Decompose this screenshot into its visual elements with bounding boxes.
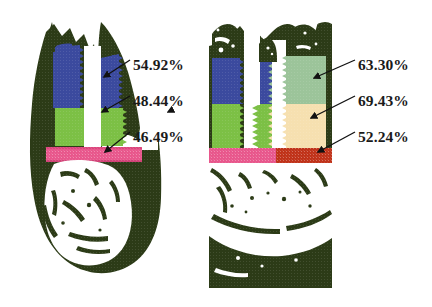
right-specimen bbox=[209, 20, 334, 290]
figure-root: 54.92% 48.44% 46.49% 63.30% 69.43% 52.24… bbox=[0, 0, 432, 307]
right-label-apical: 52.24% bbox=[358, 129, 409, 145]
right-label-coronal: 63.30% bbox=[358, 57, 409, 73]
left-label-coronal: 54.92% bbox=[133, 57, 184, 73]
left-label-middle: 48.44% bbox=[133, 93, 184, 109]
histology-figure bbox=[0, 0, 432, 307]
left-label-apical: 46.49% bbox=[133, 129, 184, 145]
right-label-middle: 69.43% bbox=[358, 93, 409, 109]
